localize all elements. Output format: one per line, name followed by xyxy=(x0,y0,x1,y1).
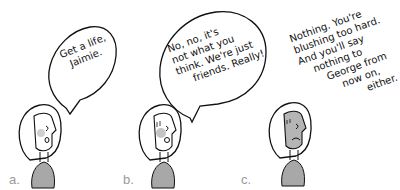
panel-label-c: c. xyxy=(241,172,251,187)
blush-icon xyxy=(156,128,166,138)
character-c xyxy=(240,0,400,190)
blush-icon xyxy=(37,129,45,137)
panel-label-a: a. xyxy=(9,172,20,187)
panel-c: Nothing. You're blushing too hard. And y… xyxy=(240,0,400,190)
panel-label-b: b. xyxy=(123,172,134,187)
panel-a: Get a life, Jaimie. a. xyxy=(0,0,130,190)
character-a xyxy=(0,0,130,190)
